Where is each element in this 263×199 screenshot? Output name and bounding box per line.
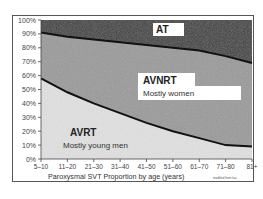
y-tick-label: 60% bbox=[22, 72, 36, 79]
label-avnrt-sub: Mostly women bbox=[143, 89, 194, 98]
source-note: modified from lsai bbox=[213, 176, 237, 180]
x-tick-label: 31–40 bbox=[111, 163, 129, 170]
x-tick-label: 21–30 bbox=[85, 163, 103, 170]
x-tick-label: 81+ bbox=[246, 163, 257, 170]
label-avrt-sub: Mostly young men bbox=[63, 141, 128, 150]
x-tick-label: 5–10 bbox=[34, 163, 49, 170]
y-tick-label: 20% bbox=[22, 128, 36, 135]
label-at: AT bbox=[156, 24, 169, 35]
y-tick-label: 70% bbox=[22, 58, 36, 65]
x-tick-label: 41–50 bbox=[137, 163, 155, 170]
label-avnrt: AVNRT bbox=[143, 75, 177, 86]
y-tick-label: 90% bbox=[22, 30, 36, 37]
label-avrt: AVRT bbox=[70, 127, 96, 138]
y-tick-label: 0% bbox=[26, 156, 36, 163]
y-tick-label: 30% bbox=[22, 114, 36, 121]
y-tick-label: 100% bbox=[18, 17, 36, 24]
x-axis-title: Paroxysmal SVT Proportion by age (years) bbox=[48, 172, 185, 181]
y-tick-label: 80% bbox=[22, 44, 36, 51]
stacked-area-chart: 0%10%20%30%40%50%60%70%80%90%100%5–1011–… bbox=[0, 0, 263, 199]
x-tick-label: 71–80 bbox=[217, 163, 235, 170]
x-tick-label: 61–70 bbox=[190, 163, 208, 170]
y-tick-label: 40% bbox=[22, 100, 36, 107]
y-tick-label: 50% bbox=[22, 86, 36, 93]
y-tick-label: 10% bbox=[22, 142, 36, 149]
x-tick-label: 51–60 bbox=[164, 163, 182, 170]
x-tick-label: 11–20 bbox=[59, 163, 77, 170]
